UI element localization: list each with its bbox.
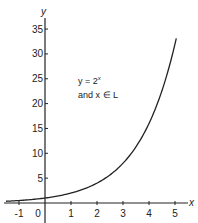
x-tick-label: 5 xyxy=(172,208,178,219)
x-tick-label: 2 xyxy=(94,208,100,219)
axes: x y xyxy=(4,6,195,223)
y-tick-label: 10 xyxy=(32,148,44,159)
x-tick-label: -1 xyxy=(15,208,24,219)
series-line-exp xyxy=(6,38,176,201)
x-tick-label: 0 xyxy=(35,208,41,219)
y-tick-label: 15 xyxy=(32,123,44,134)
y-tick-label: 5 xyxy=(37,173,43,184)
y-tick-label: 35 xyxy=(32,24,44,35)
y-axis-label: y xyxy=(40,6,47,17)
x-tick-label: 1 xyxy=(68,208,74,219)
annotation-line-2: and x ∈ L xyxy=(78,90,118,100)
x-axis-label: x xyxy=(188,197,195,208)
x-ticks: -1012345 xyxy=(15,201,179,219)
x-tick-label: 4 xyxy=(146,208,152,219)
y-tick-label: 20 xyxy=(32,98,44,109)
equation-annotation: y = 2x and x ∈ L xyxy=(78,75,118,100)
y-tick-label: 25 xyxy=(32,73,44,84)
x-tick-label: 3 xyxy=(120,208,126,219)
annotation-line-1: y = 2x xyxy=(78,75,102,86)
chart: x y -1012345 5101520253035 y = 2x and x … xyxy=(0,0,198,223)
y-tick-label: 30 xyxy=(32,48,44,59)
